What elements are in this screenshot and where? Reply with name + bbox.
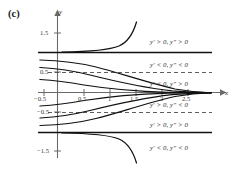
region-label-neg1-to-neg-half: y′ > 0, y″ > 0 (150, 121, 188, 128)
plot-canvas (0, 0, 234, 169)
solution-curve-above-1 (62, 22, 137, 52)
y-tick-label-0-5: 0.5 (40, 68, 48, 75)
region-label-neg-half-to-0: y′ > 0, y″ < 0 (150, 101, 188, 108)
x-tick-label-1-5: 1.5 (130, 95, 138, 102)
region-label-below-neg1: y′ < 0, y″ < 0 (150, 144, 188, 151)
region-label-above-1: y′ > 0, y″ > 0 (150, 38, 188, 45)
y-tick-label-neg-0-5: −0.5 (37, 108, 49, 115)
x-tick-label-0-5: 0.5 (78, 95, 86, 102)
region-label-0-to-half: y′ < 0, y″ > 0 (150, 80, 188, 87)
y-tick-label-neg-1-5: −1.5 (37, 147, 49, 154)
region-label-half-to-1: y′ < 0, y″ < 0 (150, 61, 188, 68)
x-axis-label: x (225, 89, 228, 97)
y-axis (54, 10, 60, 159)
x-tick-label-neg-0-5: −0.5 (34, 95, 46, 102)
solution-curve-below-neg1 (62, 133, 137, 163)
y-axis-label: y (59, 8, 62, 16)
x-tick-label-1: 1 (108, 95, 111, 102)
figure-panel-c: (c) (0, 0, 234, 169)
y-tick-label-1-5: 1.5 (40, 29, 48, 36)
